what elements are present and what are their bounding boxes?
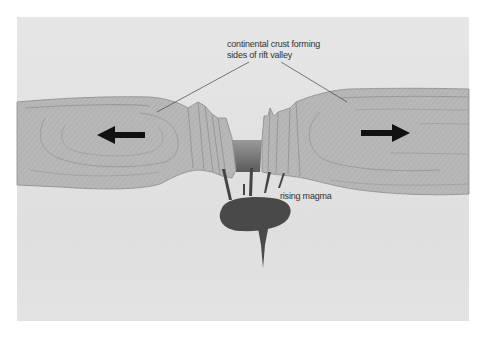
- rift-gap: [232, 140, 262, 172]
- magma-label: rising magma: [280, 191, 332, 202]
- crust-label: continental crust forming sides of rift …: [227, 39, 320, 61]
- left-crust-block: [17, 97, 236, 189]
- crust-label-line1: continental crust forming: [227, 39, 320, 50]
- right-crust-block: [262, 88, 469, 195]
- crust-label-line2: sides of rift valley: [227, 50, 320, 61]
